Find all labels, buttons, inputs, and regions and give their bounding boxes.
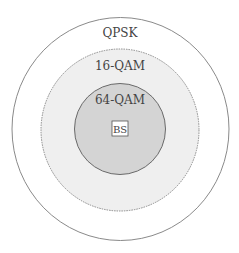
base-station-label: BS	[113, 124, 127, 135]
diagram-svg: QPSK 16-QAM 64-QAM BS	[0, 0, 239, 253]
qpsk-label: QPSK	[102, 26, 138, 40]
16qam-label: 16-QAM	[95, 59, 145, 73]
64qam-label: 64-QAM	[95, 93, 145, 107]
modulation-coverage-diagram: QPSK 16-QAM 64-QAM BS	[0, 0, 239, 253]
